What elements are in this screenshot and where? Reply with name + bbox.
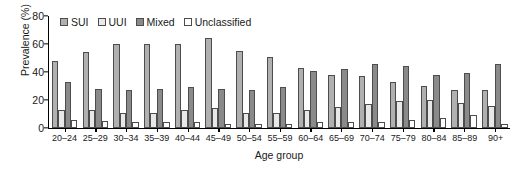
x-tick-mark xyxy=(188,128,189,132)
bar-group xyxy=(449,16,480,128)
x-tick-label: 50–54 xyxy=(234,133,265,143)
bar-group xyxy=(80,16,111,128)
x-tick-mark xyxy=(403,128,404,132)
x-tick-mark xyxy=(464,128,465,132)
x-tick-label: 55–59 xyxy=(265,133,296,143)
plot-area: 020406080 xyxy=(48,16,510,128)
x-tick-mark xyxy=(249,128,250,132)
bar-unclassified xyxy=(132,122,138,128)
y-axis-title: Prevalence (%) xyxy=(19,0,31,95)
x-tick-mark xyxy=(126,128,127,132)
x-tick-label: 40–44 xyxy=(172,133,203,143)
bar-group xyxy=(111,16,142,128)
bar-group xyxy=(203,16,234,128)
bar-unclassified xyxy=(378,122,384,128)
bar-mixed xyxy=(341,69,347,128)
x-tick-mark xyxy=(95,128,96,132)
bar-group xyxy=(172,16,203,128)
bar-mixed xyxy=(218,89,224,128)
bar-group xyxy=(418,16,449,128)
x-tick-mark xyxy=(218,128,219,132)
bar-groups xyxy=(49,16,510,128)
bar-unclassified xyxy=(194,122,200,128)
x-tick-label: 30–34 xyxy=(111,133,142,143)
bar-unclassified xyxy=(409,120,415,128)
bar-unclassified xyxy=(225,124,231,128)
x-tick-label: 35–39 xyxy=(141,133,172,143)
bar-mixed xyxy=(495,64,501,128)
x-tick-mark xyxy=(495,128,496,132)
x-tick-label: 45–49 xyxy=(203,133,234,143)
x-tick-mark xyxy=(310,128,311,132)
bar-unclassified xyxy=(71,120,77,128)
y-tick-mark xyxy=(44,127,48,128)
bar-group xyxy=(479,16,510,128)
bar-mixed xyxy=(310,71,316,128)
x-tick-mark xyxy=(280,128,281,132)
x-tick-mark xyxy=(65,128,66,132)
prevalence-by-age-group-chart: Prevalence (%) SUI UUI Mixed Unclassifie… xyxy=(0,0,517,172)
y-tick-label: 20 xyxy=(32,94,44,106)
x-tick-mark xyxy=(341,128,342,132)
x-tick-label: 65–69 xyxy=(326,133,357,143)
bar-unclassified xyxy=(348,122,354,128)
y-tick-mark xyxy=(44,99,48,100)
y-tick-mark xyxy=(44,15,48,16)
y-tick-label: 40 xyxy=(32,66,44,78)
bar-group xyxy=(234,16,265,128)
bar-unclassified xyxy=(470,115,476,128)
x-tick-label: 60–64 xyxy=(295,133,326,143)
bar-group xyxy=(387,16,418,128)
y-tick-label: 60 xyxy=(32,38,44,50)
x-tick-label: 70–74 xyxy=(357,133,388,143)
bar-unclassified xyxy=(286,124,292,128)
y-tick-mark xyxy=(44,43,48,44)
bar-unclassified xyxy=(501,124,507,128)
x-tick-mark xyxy=(372,128,373,132)
bar-group xyxy=(356,16,387,128)
y-tick-label: 80 xyxy=(32,10,44,22)
x-tick-label: 85–89 xyxy=(449,133,480,143)
x-tick-mark xyxy=(433,128,434,132)
bar-group xyxy=(264,16,295,128)
bar-group xyxy=(141,16,172,128)
x-tick-label: 75–79 xyxy=(388,133,419,143)
x-tick-label: 20–24 xyxy=(49,133,80,143)
bar-group xyxy=(326,16,357,128)
x-axis-title: Age group xyxy=(48,149,510,161)
bar-unclassified xyxy=(255,124,261,128)
x-tick-mark xyxy=(157,128,158,132)
bar-unclassified xyxy=(440,118,446,128)
bar-mixed xyxy=(372,64,378,128)
x-tick-label: 25–29 xyxy=(80,133,111,143)
bar-group xyxy=(295,16,326,128)
x-axis-tick-labels: 20–2425–2930–3435–3940–4445–4950–5455–59… xyxy=(49,133,511,143)
y-tick-mark xyxy=(44,71,48,72)
bar-unclassified xyxy=(163,122,169,128)
bar-mixed xyxy=(280,87,286,128)
x-tick-label: 80–84 xyxy=(419,133,450,143)
bar-group xyxy=(49,16,80,128)
bar-unclassified xyxy=(102,121,108,128)
bar-unclassified xyxy=(317,122,323,128)
x-tick-label: 90+ xyxy=(480,133,511,143)
bar-mixed xyxy=(249,90,255,128)
